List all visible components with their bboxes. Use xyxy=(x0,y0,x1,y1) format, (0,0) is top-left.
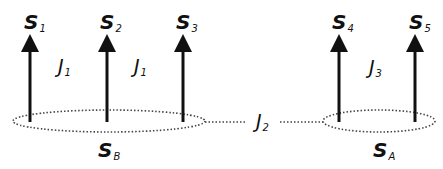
spin-label-5: S5 xyxy=(409,12,431,34)
coupling-label-j1-right: J1 xyxy=(134,57,147,78)
coupling-label-j1-left: J1 xyxy=(58,57,71,78)
cluster-label-a: SA xyxy=(373,140,395,162)
spin-label-4: S4 xyxy=(332,12,354,34)
spin-label-1: S1 xyxy=(24,12,46,34)
spin-label-2: S2 xyxy=(100,12,122,34)
coupling-label-j2: J2 xyxy=(256,112,269,133)
coupling-label-j3: J3 xyxy=(369,58,382,79)
cluster-b-ellipse xyxy=(13,110,205,132)
spin-label-3: S3 xyxy=(176,12,198,34)
cluster-label-b: SB xyxy=(98,140,120,162)
